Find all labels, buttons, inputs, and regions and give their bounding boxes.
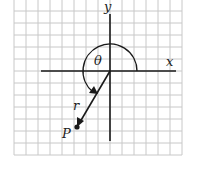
radius-label: r xyxy=(73,98,80,113)
theta-label: θ xyxy=(94,53,102,68)
point-p-label: P xyxy=(61,126,71,141)
point-p-dot xyxy=(74,124,79,129)
polar-diagram: y x θ r P xyxy=(0,0,197,170)
grid xyxy=(14,0,182,155)
y-axis-label: y xyxy=(103,0,112,14)
x-axis-label: x xyxy=(166,54,174,69)
